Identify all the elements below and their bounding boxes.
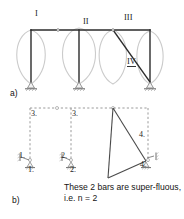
support-right <box>144 82 156 91</box>
part-a-group <box>17 28 163 91</box>
part-b-group <box>18 107 159 179</box>
superfluous-bar-2 <box>108 108 113 178</box>
release-label-2-lower: 2. <box>70 166 76 174</box>
part-b-label: b) <box>12 196 20 205</box>
hinge-dot-top-left <box>56 107 59 110</box>
release-label-1-lower: 1. <box>28 166 34 174</box>
part-a-label: a) <box>10 89 18 98</box>
release-label-2-upper: 2. <box>61 152 67 160</box>
release-label-1-upper: 1. <box>19 152 25 160</box>
dashed-frame-hinges <box>29 107 150 162</box>
span-label-I: I <box>35 9 38 18</box>
span-label-IV: IV <box>127 57 136 67</box>
release-label-3-left: 3. <box>31 110 37 118</box>
deflection-curves <box>17 28 163 84</box>
span-label-III: III <box>124 13 133 22</box>
deflection-curve-bay-4 <box>99 30 126 84</box>
hinge-dot-base-right <box>147 159 150 162</box>
support-left <box>25 82 37 91</box>
superfluous-bars-caption: These 2 bars are super-fluous, i.e. n = … <box>64 182 182 203</box>
release-markers <box>18 153 159 162</box>
support-middle <box>73 82 85 91</box>
release-label-3-right: 3. <box>72 110 78 118</box>
span-label-II: II <box>83 17 89 26</box>
joint-dot-right <box>112 29 115 32</box>
supports-part-a <box>25 82 156 91</box>
supports-part-b <box>25 162 151 170</box>
release-label-4-lower: 4. <box>140 161 146 169</box>
joint-dot-left <box>57 29 60 32</box>
release-label-4-upper: 4. <box>139 131 145 139</box>
